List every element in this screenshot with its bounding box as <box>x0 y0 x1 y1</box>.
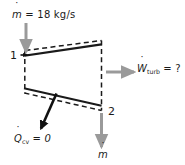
turbine-control-volume-diagram: ˙m = 18 kg/s ˙Wturb = ? ˙Qcv = 0 ˙m 1 2 <box>0 0 185 165</box>
mdot-symbol: ˙m <box>98 150 108 160</box>
heat-transfer-value: 0 <box>45 133 52 144</box>
heat-transfer-label: ˙Qcv = 0 <box>14 134 51 145</box>
heat-transfer-arrow <box>41 94 57 129</box>
work-output-label: ˙Wturb = ? <box>137 64 181 75</box>
inlet-mass-flow-label: ˙m = 18 kg/s <box>12 10 75 20</box>
heat-transfer-subscript: cv <box>22 138 29 145</box>
equals-sign: = <box>33 133 42 144</box>
state-2-label: 2 <box>108 106 115 117</box>
outlet-mass-flow-label: ˙m <box>98 150 108 160</box>
wdot-symbol: ˙W <box>137 64 147 74</box>
state-1-label: 1 <box>10 50 17 61</box>
equals-sign: = <box>25 9 34 20</box>
equals-sign: = <box>163 63 172 74</box>
mdot-symbol: ˙m <box>12 10 22 20</box>
qdot-symbol: ˙Q <box>14 134 22 144</box>
work-output-subscript: turb <box>147 68 160 75</box>
inlet-mass-flow-units: kg/s <box>54 9 76 20</box>
work-output-value: ? <box>175 63 181 74</box>
inlet-mass-flow-value: 18 <box>37 9 50 20</box>
